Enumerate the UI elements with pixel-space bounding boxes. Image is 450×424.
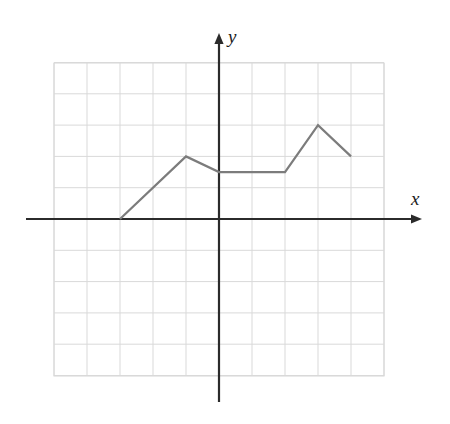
curve-polyline: [120, 125, 351, 219]
graph-figure: y x: [0, 0, 450, 424]
axes: [26, 33, 422, 402]
coordinate-plane-svg: [0, 0, 450, 424]
y-axis-arrowhead: [214, 33, 223, 44]
x-axis-arrowhead: [411, 214, 422, 223]
y-axis-label: y: [228, 27, 236, 46]
x-axis-label: x: [411, 189, 419, 208]
data-curve: [120, 125, 351, 219]
